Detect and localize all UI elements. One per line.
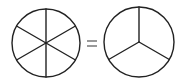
- right-circle-spoke: [139, 42, 169, 60]
- right-circle-spoke: [109, 42, 139, 60]
- equals-sign: [87, 41, 97, 46]
- left-circle-spoke: [17, 43, 46, 60]
- left-circle-sixths: [12, 9, 80, 77]
- fraction-diagram: [0, 0, 183, 80]
- left-circle-spoke: [46, 43, 75, 60]
- right-circle-thirds: [104, 7, 174, 77]
- left-circle-spoke: [17, 26, 46, 43]
- left-circle-spoke: [46, 26, 75, 43]
